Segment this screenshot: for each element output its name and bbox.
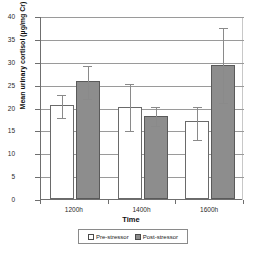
legend-swatch-icon xyxy=(88,234,94,240)
legend-item-post-stressor[interactable]: Post-stressor xyxy=(135,234,178,240)
chart-legend: Pre-stressorPost-stressor xyxy=(78,229,188,244)
y-axis-tick-label: 5 xyxy=(0,174,15,181)
y-axis-tick-label: 0 xyxy=(0,197,15,204)
legend-label: Post-stressor xyxy=(143,234,178,240)
error-bar-cap-lower xyxy=(219,103,228,104)
legend-item-pre-stressor[interactable]: Pre-stressor xyxy=(88,234,129,240)
legend-swatch-icon xyxy=(135,234,141,240)
x-axis-tick-mark xyxy=(175,200,176,204)
y-axis-tick-mark xyxy=(35,109,40,110)
gridline xyxy=(41,17,244,18)
y-axis-tick-label: 10 xyxy=(0,151,15,158)
x-axis-tick-label: 1200h xyxy=(44,206,104,213)
error-bar-cap-upper xyxy=(125,84,134,85)
error-bar-cap-lower xyxy=(151,126,160,127)
y-axis-tick-mark xyxy=(35,63,40,64)
y-axis-tick-label: 15 xyxy=(0,128,15,135)
error-bar-line xyxy=(130,84,131,131)
error-bar-line xyxy=(156,107,157,126)
y-axis-tick-label: 35 xyxy=(0,37,15,44)
error-bar-line xyxy=(88,66,89,99)
y-axis-tick-label: 30 xyxy=(0,60,15,67)
plot-area xyxy=(40,17,243,200)
x-axis-tick-label: 1400h xyxy=(112,206,172,213)
gridline xyxy=(41,63,244,64)
error-bar-cap-lower xyxy=(83,99,92,100)
error-bar-cap-upper xyxy=(151,107,160,108)
bar-1200h-pre-stressor xyxy=(50,105,74,199)
bar-1400h-post-stressor xyxy=(144,116,168,199)
y-axis-tick-label: 20 xyxy=(0,106,15,113)
x-axis-tick-mark xyxy=(108,200,109,204)
y-axis-tick-mark xyxy=(35,131,40,132)
gridline xyxy=(41,40,244,41)
y-axis-title: Mean urinary cortisol (µg/mg Cr) xyxy=(19,0,26,126)
legend-label: Pre-stressor xyxy=(96,234,129,240)
bar-chart: Mean urinary cortisol (µg/mg Cr) 0510152… xyxy=(0,0,262,256)
error-bar-cap-lower xyxy=(57,118,66,119)
y-axis-tick-mark xyxy=(35,86,40,87)
error-bar-cap-upper xyxy=(83,66,92,67)
error-bar-line xyxy=(197,107,198,140)
y-axis-tick-mark xyxy=(35,154,40,155)
y-axis-tick-mark xyxy=(35,40,40,41)
x-axis-tick-mark xyxy=(243,200,244,204)
error-bar-cap-upper xyxy=(57,95,66,96)
y-axis-tick-label: 40 xyxy=(0,14,15,21)
y-axis-tick-label: 25 xyxy=(0,83,15,90)
error-bar-line xyxy=(62,95,63,118)
y-axis-tick-mark xyxy=(35,17,40,18)
error-bar-cap-lower xyxy=(125,131,134,132)
error-bar-cap-lower xyxy=(193,140,202,141)
error-bar-line xyxy=(223,28,224,102)
error-bar-cap-upper xyxy=(193,107,202,108)
y-axis-tick-mark xyxy=(35,177,40,178)
x-axis-tick-label: 1600h xyxy=(179,206,239,213)
error-bar-cap-upper xyxy=(219,28,228,29)
x-axis-tick-mark xyxy=(40,200,41,204)
x-axis-title: Time xyxy=(0,215,262,224)
